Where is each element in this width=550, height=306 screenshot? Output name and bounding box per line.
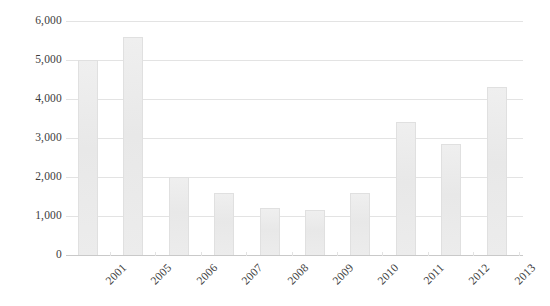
x-axis-tick [473,252,474,256]
y-axis-tick-label: 2,000 [0,171,62,183]
x-axis-tick-label-2009: 2009 [331,262,356,287]
x-axis-tick-label-2013: 2013 [513,262,538,287]
bar-2001[interactable] [78,60,98,255]
bar-2010[interactable] [350,193,370,255]
x-axis-tick [428,252,429,256]
x-axis-tick-label-2008: 2008 [286,262,311,287]
x-axis-tick [155,252,156,256]
x-axis-tick [201,252,202,256]
bar-2006[interactable] [169,177,189,255]
bar-2007[interactable] [214,193,234,255]
x-axis-tick-label-2012: 2012 [467,262,492,287]
y-axis-tick-label: 5,000 [0,54,62,66]
y-axis: 01,0002,0003,0004,0005,0006,000 [0,0,62,306]
y-axis-tick-label: 6,000 [0,15,62,27]
x-axis-tick [110,252,111,256]
x-axis-tick-label-2006: 2006 [195,262,220,287]
bar-2005[interactable] [123,37,143,255]
x-axis: 2001200520062007200820092010201120122013 [66,256,523,306]
x-axis-tick [519,252,520,256]
x-axis-tick [292,252,293,256]
x-axis-tick-label-2001: 2001 [104,262,129,287]
bar-2008[interactable] [260,208,280,255]
x-axis-tick-label-2007: 2007 [240,262,265,287]
y-axis-tick-label: 3,000 [0,132,62,144]
x-axis-tick [337,252,338,256]
x-axis-tick-label-2005: 2005 [149,262,174,287]
y-axis-tick-label: 4,000 [0,93,62,105]
x-axis-tick [246,252,247,256]
x-axis-tick-label-2010: 2010 [376,262,401,287]
bar-2013[interactable] [487,87,507,255]
y-axis-tick-label: 0 [0,249,62,261]
bar-2011[interactable] [396,122,416,255]
y-axis-tick-label: 1,000 [0,210,62,222]
bar-2009[interactable] [305,210,325,255]
bar-2012[interactable] [441,144,461,255]
x-axis-tick [382,252,383,256]
x-axis-tick-label-2011: 2011 [422,262,447,287]
gridline-6000 [66,21,523,22]
bar-chart: 01,0002,0003,0004,0005,0006,000 20012005… [0,0,550,306]
plot-area [66,21,523,255]
